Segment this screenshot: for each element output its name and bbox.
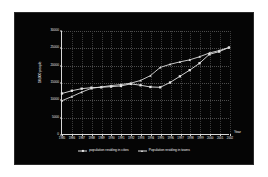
gridline	[230, 31, 231, 134]
y-tick-label: 20000	[50, 64, 59, 67]
x-tick-label: 1998	[187, 137, 193, 140]
x-axis-title: Year	[234, 131, 241, 134]
data-point	[139, 84, 141, 86]
series-line-0	[62, 47, 229, 93]
data-point	[179, 75, 181, 77]
series-line-1	[62, 47, 229, 100]
x-tick-label: 1995	[158, 137, 164, 140]
legend-marker-square-icon	[78, 149, 87, 152]
chart-panel: 10,000 people Year 050001000015000200002…	[14, 12, 254, 165]
series-lines	[62, 31, 229, 134]
y-tick-label: 30000	[50, 29, 59, 32]
data-point	[169, 81, 171, 83]
x-tick-label: 1990	[108, 137, 114, 140]
data-point	[149, 86, 151, 88]
legend-label-towns: Population residing in towns	[149, 149, 190, 152]
data-point	[61, 92, 63, 94]
y-axis-title: 10,000 people	[39, 62, 42, 84]
x-tick-label: 1985	[59, 137, 65, 140]
y-tick-label: 25000	[50, 47, 59, 50]
x-tick-label: 1987	[79, 137, 85, 140]
x-tick-label: 1999	[197, 137, 203, 140]
x-tick-label: 1989	[98, 137, 104, 140]
x-tick-label: 2001	[217, 137, 223, 140]
legend-label-cities: population residing in cities	[89, 149, 129, 152]
chart-figure: 10,000 people Year 050001000015000200002…	[0, 0, 268, 177]
y-tick-label: 10000	[50, 99, 59, 102]
data-point	[71, 90, 73, 92]
x-tick-label: 1991	[118, 137, 124, 140]
data-point	[81, 88, 83, 90]
data-point	[198, 62, 200, 64]
x-tick-label: 2000	[207, 137, 213, 140]
chart-legend: population residing in cities Population…	[15, 149, 253, 152]
data-point	[159, 86, 161, 88]
y-tick-label: 5000	[52, 116, 59, 119]
x-tick-label: 1993	[138, 137, 144, 140]
x-tick-label: 1996	[167, 137, 173, 140]
legend-item-towns[interactable]: Population residing in towns	[138, 149, 190, 152]
x-tick-label: 1988	[88, 137, 94, 140]
x-tick-label: 1997	[177, 137, 183, 140]
x-tick-label: 1994	[148, 137, 154, 140]
y-tick-label: 15000	[50, 81, 59, 84]
legend-item-cities[interactable]: population residing in cities	[78, 149, 129, 152]
plot-area: 050001000015000200002500030000 198519861…	[61, 31, 229, 135]
x-tick-label: 1992	[128, 137, 134, 140]
data-point	[189, 69, 191, 71]
legend-marker-triangle-icon	[138, 149, 147, 152]
x-tick-label: 1986	[69, 137, 75, 140]
x-tick-label: 2002	[227, 137, 233, 140]
